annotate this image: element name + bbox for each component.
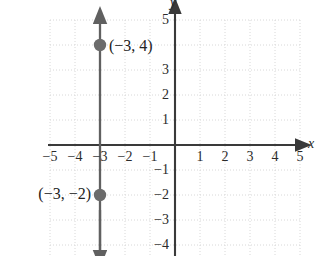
graph-figure: −5 −4 −3 −2 −1 1 2 3 4 5 5 3 2 1 −1 −2 −… — [0, 0, 331, 256]
y-tick-minus-1: −1 — [154, 163, 169, 177]
point-label-lower: (−3, −2) — [38, 186, 91, 202]
y-tick-2: 2 — [162, 88, 169, 102]
point-label-upper: (−3, 4) — [109, 38, 153, 54]
y-tick-5: 5 — [162, 13, 169, 27]
x-tick-minus-5: −5 — [43, 150, 58, 164]
x-tick-1: 1 — [197, 150, 204, 164]
point-marker-upper — [94, 39, 106, 51]
y-tick-minus-4: −4 — [154, 238, 169, 252]
x-tick-5: 5 — [297, 150, 304, 164]
x-tick-4: 4 — [272, 150, 279, 164]
y-axis-label: y — [170, 0, 176, 10]
x-tick-minus-4: −4 — [68, 150, 83, 164]
x-tick-2: 2 — [222, 150, 229, 164]
x-axis-label: x — [308, 137, 314, 151]
x-tick-minus-2: −2 — [118, 150, 133, 164]
x-tick-3: 3 — [247, 150, 254, 164]
y-tick-minus-3: −3 — [154, 213, 169, 227]
y-tick-minus-2: −2 — [154, 188, 169, 202]
axes — [48, 12, 297, 256]
x-tick-minus-3: −3 — [93, 150, 108, 164]
y-tick-3: 3 — [162, 63, 169, 77]
point-marker-lower — [94, 189, 106, 201]
y-tick-1: 1 — [162, 113, 169, 127]
